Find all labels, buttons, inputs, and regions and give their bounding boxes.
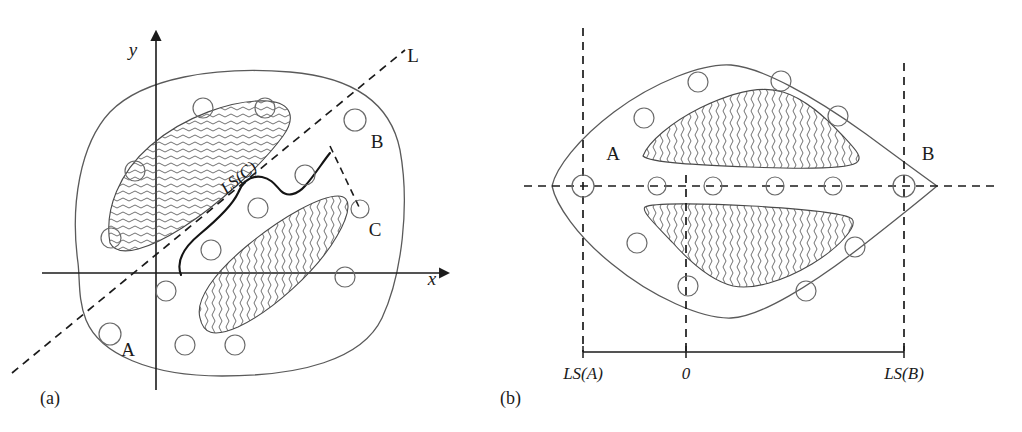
panel-a: y x L <box>12 32 448 409</box>
panel-b-tick-label-lsa: LS(A) <box>562 364 603 383</box>
panel-b: A B LS(A) 0 LS(B) (b) <box>500 28 996 409</box>
figure-svg: y x L <box>0 0 1022 432</box>
panel-b-tick-label-zero: 0 <box>682 364 691 383</box>
panel-a-label-C: C <box>369 219 382 240</box>
panel-b-label-B: B <box>922 143 935 164</box>
panel-a-y-axis-label: y <box>127 39 138 60</box>
panel-a-label-A: A <box>121 339 135 360</box>
panel-a-caption: (a) <box>40 388 60 409</box>
panel-a-x-axis-label: x <box>427 268 437 289</box>
panel-a-label-B: B <box>371 131 384 152</box>
panel-b-label-A: A <box>606 143 620 164</box>
panel-a-line-L-label: L <box>407 45 419 66</box>
panel-b-caption: (b) <box>500 388 521 409</box>
figure-root: y x L <box>0 0 1022 432</box>
panel-b-tick-label-lsb: LS(B) <box>883 364 924 383</box>
